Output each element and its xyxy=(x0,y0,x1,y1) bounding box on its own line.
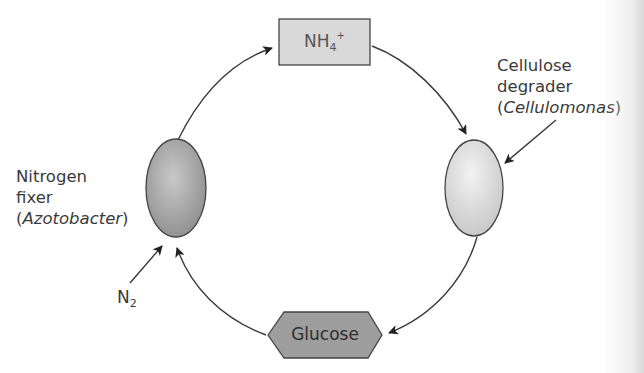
azotobacter-genus: Azotobacter xyxy=(22,209,122,228)
glucose-text: Glucose xyxy=(291,324,359,344)
cellulomonas-cell xyxy=(445,140,503,236)
nitrogen-fixer-line2: fixer xyxy=(16,187,129,208)
arrow-degrader-to-glucose xyxy=(389,237,477,333)
nitrogen-fixer-genus-line: (Azotobacter) xyxy=(16,208,129,229)
nitrogen-subscript: 2 xyxy=(130,297,137,310)
ammonium-subscript: 4 xyxy=(330,41,337,54)
arrow-n2-to-fixer xyxy=(130,246,162,283)
ammonium-charge: + xyxy=(337,30,345,41)
arrow-label-to-degrader xyxy=(505,120,556,163)
cellulose-degrader-genus-line: (Cellulomonas) xyxy=(497,97,621,118)
paren-close: ) xyxy=(122,209,128,228)
nitrogen-gas-label: N2 xyxy=(117,287,137,314)
nitrogen-symbol: N xyxy=(117,287,130,307)
cellulose-degrader-line1: Cellulose xyxy=(497,55,621,76)
arrow-ammonium-to-degrader xyxy=(372,46,466,134)
arrow-fixer-to-ammonium xyxy=(178,48,272,140)
page-edge-shadow xyxy=(604,0,644,373)
cellulose-degrader-line2: degrader xyxy=(497,76,621,97)
arrow-glucose-to-fixer xyxy=(177,248,266,335)
cellulose-degrader-label: Cellulose degrader (Cellulomonas) xyxy=(497,55,621,118)
nitrogen-fixer-label: Nitrogen fixer (Azotobacter) xyxy=(16,166,129,229)
glucose-label: Glucose xyxy=(268,324,382,344)
cellulomonas-genus: Cellulomonas xyxy=(503,98,614,117)
nitrogen-fixer-line1: Nitrogen xyxy=(16,166,129,187)
ammonium-symbol: NH xyxy=(304,31,330,51)
ammonium-label: NH4+ xyxy=(279,30,370,54)
azotobacter-cell xyxy=(146,139,206,237)
symbiosis-cycle-diagram: NH4+ Glucose Nitrogen fixer (Azotobacter… xyxy=(0,0,644,373)
